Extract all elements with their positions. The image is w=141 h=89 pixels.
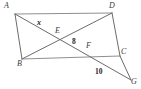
segment-AB — [15, 14, 22, 59]
measure-label-10: 10 — [95, 68, 103, 76]
measure-label-x: x — [37, 19, 41, 27]
segment-DC — [112, 13, 120, 56]
figure-canvas — [0, 0, 141, 89]
vertex-label-G: G — [131, 78, 137, 86]
segment-BC — [22, 56, 120, 59]
segment-AD — [15, 13, 112, 14]
vertex-label-E: E — [55, 27, 60, 35]
geometry-figure: A D B C E F G x 8 10 — [0, 0, 141, 89]
vertex-label-C: C — [121, 48, 126, 56]
vertex-label-A: A — [4, 2, 9, 10]
measure-label-8: 8 — [72, 38, 76, 46]
vertex-label-F: F — [86, 42, 91, 50]
vertex-label-D: D — [109, 2, 115, 10]
segment-BD — [22, 13, 112, 59]
vertex-label-B: B — [17, 60, 22, 68]
